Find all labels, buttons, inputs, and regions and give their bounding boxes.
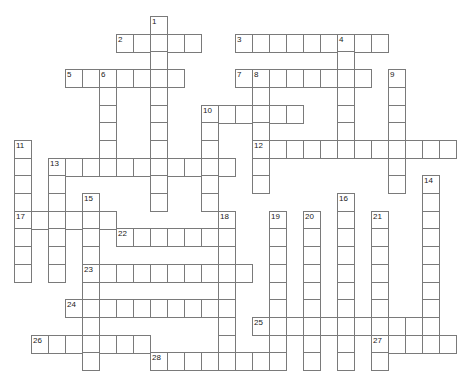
crossword-cell[interactable] xyxy=(201,193,219,212)
crossword-cell[interactable] xyxy=(184,299,202,318)
crossword-cell[interactable] xyxy=(167,158,185,177)
crossword-cell[interactable] xyxy=(201,264,219,283)
crossword-cell[interactable] xyxy=(371,228,389,247)
crossword-cell-11[interactable]: 11 xyxy=(14,140,32,159)
crossword-cell[interactable] xyxy=(218,352,236,371)
crossword-cell[interactable] xyxy=(167,228,185,247)
crossword-cell[interactable] xyxy=(252,122,270,141)
crossword-cell[interactable] xyxy=(167,34,185,53)
crossword-cell[interactable] xyxy=(269,246,287,265)
crossword-cell[interactable] xyxy=(14,246,32,265)
crossword-cell[interactable] xyxy=(422,228,440,247)
crossword-cell-22[interactable]: 22 xyxy=(116,228,134,247)
crossword-cell[interactable] xyxy=(65,211,83,230)
crossword-cell[interactable] xyxy=(269,34,287,53)
crossword-cell[interactable] xyxy=(439,335,457,354)
crossword-cell[interactable] xyxy=(48,193,66,212)
crossword-cell[interactable] xyxy=(337,51,355,70)
crossword-cell[interactable] xyxy=(150,140,168,159)
crossword-cell[interactable] xyxy=(235,352,253,371)
crossword-cell[interactable] xyxy=(252,87,270,106)
crossword-cell[interactable] xyxy=(184,352,202,371)
crossword-cell[interactable] xyxy=(371,264,389,283)
crossword-cell[interactable] xyxy=(167,69,185,88)
crossword-cell[interactable] xyxy=(337,264,355,283)
crossword-cell[interactable] xyxy=(201,140,219,159)
crossword-cell-25[interactable]: 25 xyxy=(252,317,270,336)
crossword-cell[interactable] xyxy=(218,299,236,318)
crossword-cell-14[interactable]: 14 xyxy=(422,175,440,194)
crossword-cell[interactable] xyxy=(388,317,406,336)
crossword-cell[interactable] xyxy=(99,335,117,354)
crossword-cell[interactable] xyxy=(320,69,338,88)
crossword-cell[interactable] xyxy=(167,299,185,318)
crossword-cell[interactable] xyxy=(116,264,134,283)
crossword-cell[interactable] xyxy=(14,228,32,247)
crossword-cell[interactable] xyxy=(320,140,338,159)
crossword-cell-23[interactable]: 23 xyxy=(82,264,100,283)
crossword-cell[interactable] xyxy=(150,69,168,88)
crossword-cell[interactable] xyxy=(371,140,389,159)
crossword-cell[interactable] xyxy=(82,246,100,265)
crossword-cell[interactable] xyxy=(337,228,355,247)
crossword-cell[interactable] xyxy=(218,246,236,265)
crossword-cell[interactable] xyxy=(337,352,355,371)
crossword-cell[interactable] xyxy=(184,158,202,177)
crossword-cell[interactable] xyxy=(303,352,321,371)
crossword-cell[interactable] xyxy=(167,264,185,283)
crossword-cell[interactable] xyxy=(99,158,117,177)
crossword-cell[interactable] xyxy=(201,228,219,247)
crossword-cell[interactable] xyxy=(371,352,389,371)
crossword-cell[interactable] xyxy=(99,87,117,106)
crossword-cell[interactable] xyxy=(303,34,321,53)
crossword-cell[interactable] xyxy=(150,175,168,194)
crossword-cell[interactable] xyxy=(354,317,372,336)
crossword-cell[interactable] xyxy=(48,246,66,265)
crossword-cell[interactable] xyxy=(133,264,151,283)
crossword-cell[interactable] xyxy=(133,69,151,88)
crossword-cell[interactable] xyxy=(388,140,406,159)
crossword-cell[interactable] xyxy=(150,299,168,318)
crossword-cell[interactable] xyxy=(269,228,287,247)
crossword-cell[interactable] xyxy=(218,105,236,124)
crossword-cell[interactable] xyxy=(269,69,287,88)
crossword-cell[interactable] xyxy=(82,69,100,88)
crossword-cell[interactable] xyxy=(422,317,440,336)
crossword-cell[interactable] xyxy=(405,317,423,336)
crossword-cell[interactable] xyxy=(201,122,219,141)
crossword-cell[interactable] xyxy=(133,34,151,53)
crossword-cell[interactable] xyxy=(337,140,355,159)
crossword-cell[interactable] xyxy=(422,246,440,265)
crossword-cell[interactable] xyxy=(388,87,406,106)
crossword-cell[interactable] xyxy=(337,246,355,265)
crossword-cell[interactable] xyxy=(405,140,423,159)
crossword-cell[interactable] xyxy=(31,211,49,230)
crossword-cell[interactable] xyxy=(303,69,321,88)
crossword-cell[interactable] xyxy=(150,51,168,70)
crossword-cell[interactable] xyxy=(422,335,440,354)
crossword-cell[interactable] xyxy=(303,264,321,283)
crossword-cell[interactable] xyxy=(235,264,253,283)
crossword-cell[interactable] xyxy=(337,69,355,88)
crossword-cell[interactable] xyxy=(269,140,287,159)
crossword-cell-1[interactable]: 1 xyxy=(150,16,168,35)
crossword-cell[interactable] xyxy=(371,299,389,318)
crossword-cell[interactable] xyxy=(201,175,219,194)
crossword-cell-2[interactable]: 2 xyxy=(116,34,134,53)
crossword-cell[interactable] xyxy=(82,299,100,318)
crossword-cell[interactable] xyxy=(337,87,355,106)
crossword-cell[interactable] xyxy=(269,317,287,336)
crossword-cell[interactable] xyxy=(48,335,66,354)
crossword-cell[interactable] xyxy=(422,299,440,318)
crossword-cell[interactable] xyxy=(218,228,236,247)
crossword-cell[interactable] xyxy=(218,158,236,177)
crossword-cell[interactable] xyxy=(388,122,406,141)
crossword-cell[interactable] xyxy=(252,352,270,371)
crossword-cell[interactable] xyxy=(99,211,117,230)
crossword-cell[interactable] xyxy=(99,140,117,159)
crossword-cell[interactable] xyxy=(337,299,355,318)
crossword-cell[interactable] xyxy=(150,193,168,212)
crossword-cell[interactable] xyxy=(65,158,83,177)
crossword-cell[interactable] xyxy=(269,264,287,283)
crossword-cell[interactable] xyxy=(252,175,270,194)
